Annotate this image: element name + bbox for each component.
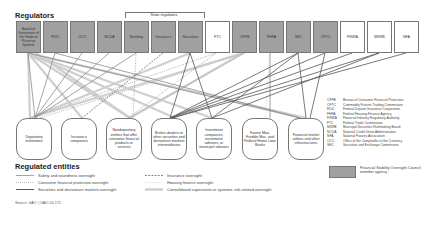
regulator-nfa: NFA [394,21,419,53]
dashed-line-icon [145,174,163,177]
legend-consumer: Consumer financial protection oversight [16,180,108,185]
regulator-fdic: FDIC [43,21,68,53]
entity-broker-dealers: Broker-dealers or other securities and d… [151,118,187,160]
legend-consolidated: Consolidated supervision or systemic ris… [145,187,271,192]
legend-safety: Safety and soundness oversight [16,173,95,178]
regulator-msrb: MSRB [367,21,392,53]
regulated-entities-title: Regulated entities [15,162,80,171]
legend-fsoc: Financial Stability Oversight Council me… [329,166,430,178]
legend-securities: Securities and derivatives markets overs… [16,187,116,192]
fine-dotted-line-icon [145,181,163,184]
regulator-occ: OCC [70,21,95,53]
regulator-frs: Board of Governors of the Federal Reserv… [16,21,41,53]
dotted-line-icon [16,181,34,184]
entity-gse: Fannie Mae, Freddie Mac, and Federal Hom… [242,118,278,160]
regulator-state-insurance: Insurance [151,21,176,53]
thick-gray-line-icon [145,188,163,191]
fsoc-swatch-icon [329,166,356,178]
regulator-cftc: CFTC [313,21,338,53]
entity-fmu: Financial market utilities and other inf… [288,118,324,160]
abbreviation-key: CFPBBureau of Consumer Financial Protect… [327,98,403,148]
regulator-sec: SEC [286,21,311,53]
regulator-cfpb: CFPB [232,21,257,53]
solid-dark-line-icon [16,188,34,191]
regulator-state-securities: Securities [178,21,203,53]
entity-nondepository: Nondepository entities that offer consum… [106,118,142,160]
regulator-fhfa: FHFA [259,21,284,53]
legend-housing: Housing finance oversight [145,180,213,185]
regulator-ftc: FTC [205,21,230,53]
regulator-state-banking: Banking [124,21,149,53]
entity-investment-companies: Investment companies, investment adviser… [196,118,232,160]
regulator-ncua: NCUA [97,21,122,53]
entity-depository: Depository institutions [16,118,52,160]
source-note: Source: GAO. | GAO-16-175 [15,201,61,205]
legend-insurance: Insurance oversight [145,173,202,178]
entity-insurance-companies: Insurance companies [61,118,97,160]
solid-gray-line-icon [16,174,34,177]
regulator-finra: FINRA [340,21,365,53]
